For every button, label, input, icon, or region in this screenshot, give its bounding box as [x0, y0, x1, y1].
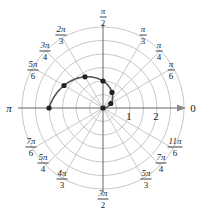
angle-label-7pi-6: 7π6 [25, 137, 36, 158]
angle-label-3pi-2: 3π2 [97, 189, 108, 210]
angle-label-pi-6: π6 [168, 60, 175, 81]
curve-point [82, 74, 87, 79]
curve-point [46, 105, 51, 110]
angle-label-5pi-3: 5π3 [140, 169, 151, 190]
curve-point [100, 78, 105, 83]
angle-label-11pi-6: 11π6 [168, 137, 183, 158]
angle-label-5pi-4: 5π4 [37, 153, 48, 174]
curve-point [61, 83, 66, 88]
angle-label-pi-4: π4 [156, 41, 163, 62]
angle-label-2pi-3: 2π3 [55, 25, 66, 46]
angle-label-pi: π [6, 103, 12, 114]
angle-label-7pi-4: 7π4 [155, 153, 166, 174]
angle-label-4pi-3: 4π3 [56, 169, 67, 190]
curve-point [109, 90, 114, 95]
polar-plot [0, 0, 202, 215]
angle-label-0: 0 [190, 103, 196, 114]
angle-label-pi-2: π2 [100, 7, 107, 28]
radial-tick-2: 2 [153, 111, 159, 122]
angle-label-pi-3: π3 [140, 25, 147, 46]
curve-point [100, 105, 105, 110]
polar-axis-arrow-icon [177, 105, 186, 112]
angle-label-3pi-4: 3π4 [39, 41, 50, 62]
angle-label-5pi-6: 5π6 [27, 60, 38, 81]
radial-tick-1: 1 [126, 111, 132, 122]
curve-point [108, 101, 113, 106]
